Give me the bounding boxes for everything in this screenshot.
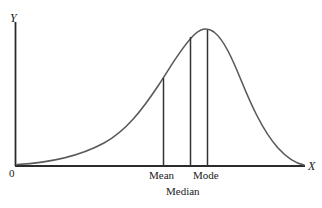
distribution-figure: Y X 0 Mean Mode Median [0,0,322,208]
x-axis-label: X [308,160,315,172]
mean-label: Mean [149,169,174,181]
origin-label: 0 [9,168,15,179]
median-label: Median [166,185,200,197]
mode-label: Mode [193,169,219,181]
y-axis-label: Y [10,12,17,24]
distribution-curve [17,29,304,165]
